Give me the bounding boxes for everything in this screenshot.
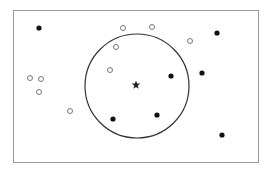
open-point	[28, 76, 33, 81]
filled-point	[199, 70, 204, 75]
knn-diagram	[0, 0, 273, 171]
filled-point	[219, 132, 224, 137]
filled-point	[36, 25, 41, 30]
open-point	[39, 77, 44, 82]
filled-point	[154, 112, 159, 117]
open-point	[108, 68, 113, 73]
open-point	[188, 39, 193, 44]
open-point	[114, 45, 119, 50]
filled-point	[168, 73, 173, 78]
open-point	[150, 25, 155, 30]
open-point	[37, 90, 42, 95]
query-star-icon	[132, 81, 141, 89]
open-point	[68, 109, 73, 114]
filled-point	[110, 116, 115, 121]
open-point	[121, 26, 126, 31]
filled-point	[214, 30, 219, 35]
